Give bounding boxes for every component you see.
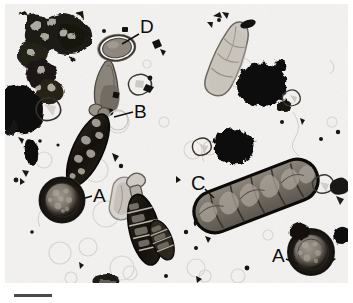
micrograph-figure: D B A C A — [0, 0, 353, 303]
round-thick-walled-spore-left — [39, 177, 86, 224]
scale-bar — [14, 294, 52, 297]
label-b-text: B — [134, 101, 147, 122]
label-d-text: D — [140, 16, 154, 37]
label-c-text: C — [191, 172, 205, 194]
label-a-left-text: A — [93, 185, 106, 206]
label-a-right-text: A — [272, 245, 285, 266]
micrograph-canvas: D B A C A — [0, 0, 353, 303]
